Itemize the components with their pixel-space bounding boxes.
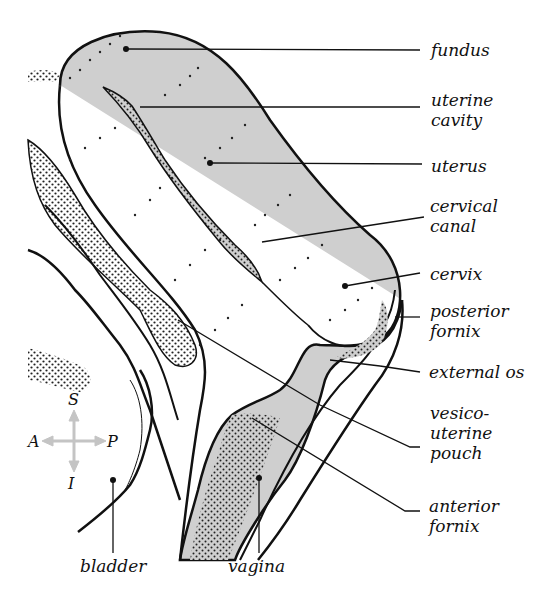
compass-superior: S xyxy=(68,390,79,409)
label-bladder: bladder xyxy=(80,556,146,576)
upper-left-stipple xyxy=(28,70,60,82)
compass-posterior: P xyxy=(107,432,118,451)
label-vesico-uterine-pouch: vesico- uterine pouch xyxy=(430,403,492,463)
label-external-os: external os xyxy=(429,362,525,382)
bladder-wall xyxy=(78,370,152,532)
label-anterior-fornix: anterior fornix xyxy=(429,496,499,536)
compass-anterior: A xyxy=(28,432,40,451)
cervical-canal-line xyxy=(262,282,308,325)
label-uterus: uterus xyxy=(431,156,487,176)
label-vagina: vagina xyxy=(228,556,285,576)
label-uterine-cavity: uterine cavity xyxy=(431,90,493,130)
left-stipple-blob xyxy=(28,348,90,392)
label-posterior-fornix: posterior fornix xyxy=(430,301,509,341)
compass-inferior: I xyxy=(68,474,74,493)
label-fundus: fundus xyxy=(431,40,490,60)
label-cervical-canal: cervical canal xyxy=(430,196,498,236)
compass-arrows xyxy=(42,410,106,472)
bladder-inner-line xyxy=(125,380,142,490)
label-cervix: cervix xyxy=(430,264,482,284)
